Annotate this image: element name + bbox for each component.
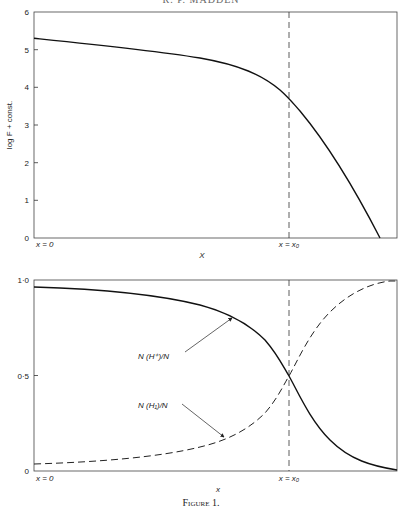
bottom-chart: 0 0·5 1·0 N (H⁺)/N N (H₁)/N x = 0 x = x₀… [17, 276, 397, 494]
annotation-arrow-n-hplus [185, 318, 232, 352]
top-chart-frame [34, 12, 397, 238]
bottom-xtick-xx0: x = x₀ [278, 474, 300, 483]
top-ytick-0: 0 [25, 234, 30, 243]
n-hplus-curve [34, 287, 397, 470]
bottom-chart-frame [34, 280, 397, 471]
top-xtick-xx0: x = x₀ [278, 240, 300, 249]
top-xtick-x0: x = 0 [35, 240, 54, 249]
top-ytick-4: 4 [25, 83, 30, 92]
top-ytick-5: 5 [25, 46, 30, 55]
annotation-n-hplus: N (H⁺)/N [138, 352, 169, 361]
annotation-arrow-n-h1 [182, 404, 224, 437]
n-h1-curve [34, 281, 397, 464]
bottom-ytick-0: 0 [25, 467, 30, 476]
annotation-n-h1: N (H₁)/N [138, 401, 168, 410]
top-ytick-6: 6 [25, 8, 30, 17]
top-y-axis-label: log F + const. [5, 101, 14, 149]
top-chart: 0 1 2 3 4 5 6 log F + const. x = 0 x = x… [5, 8, 397, 260]
top-ytick-3: 3 [25, 121, 30, 130]
bottom-ytick-10: 1·0 [17, 276, 29, 285]
bottom-xtick-x0: x = 0 [35, 474, 54, 483]
top-y-ticks [34, 50, 38, 201]
top-x-axis-label: X [198, 251, 205, 260]
bottom-ytick-05: 0·5 [17, 372, 29, 381]
top-ytick-1: 1 [25, 196, 30, 205]
log-f-curve [34, 38, 380, 238]
figure-canvas: 0 1 2 3 4 5 6 log F + const. x = 0 x = x… [0, 0, 402, 514]
bottom-x-axis-label: x [215, 485, 221, 494]
top-ytick-2: 2 [25, 159, 30, 168]
figure-caption: Figure 1. [0, 497, 402, 508]
